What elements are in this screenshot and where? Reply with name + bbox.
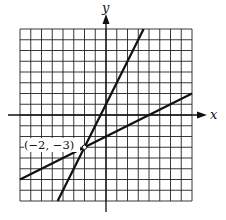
axes bbox=[8, 14, 207, 212]
intersection-point-label: (−2, −3) bbox=[24, 138, 74, 152]
y-axis-label: y bbox=[101, 0, 110, 15]
graph: x y (−2, −3) bbox=[0, 0, 226, 220]
x-axis-label: x bbox=[210, 107, 218, 122]
